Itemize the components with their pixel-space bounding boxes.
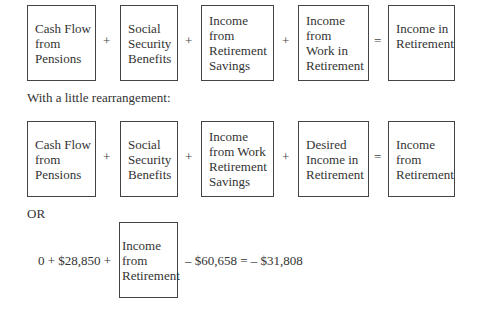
row2-plus-2: + [185, 149, 192, 165]
row2-plus-3: + [282, 149, 289, 165]
row2-box-income-from-retirement: Income from Retirement [388, 121, 455, 197]
row1-plus-1: + [103, 33, 110, 49]
row2-term-desired-income: Desired Income in Retirement [299, 137, 366, 182]
row1-term-social-security: Social Security Benefits [121, 21, 173, 66]
row2-term-work-retirement-savings: Income from Work Retirement Savings [202, 129, 269, 189]
row2-box-desired-income: Desired Income in Retirement [298, 121, 369, 197]
row1-box-retirement-savings: Income from Retirement Savings [201, 5, 274, 81]
row2-box-work-retirement-savings: Income from Work Retirement Savings [201, 121, 274, 197]
row1-term-income-in-retirement: Income in Retirement [389, 21, 456, 51]
row2-plus-1: + [103, 149, 110, 165]
row2-box-social-security: Social Security Benefits [120, 121, 178, 197]
row1-plus-2: + [185, 33, 192, 49]
or-label: OR [27, 206, 45, 222]
row1-term-work-in-retirement: Income from Work in Retirement [299, 13, 366, 73]
row1-box-income-in-retirement: Income in Retirement [388, 5, 455, 81]
row3-term-income-from-retirement: Income from Retirement [120, 238, 182, 283]
row1-box-pensions: Cash Flow from Pensions [27, 5, 96, 81]
row3-box-income-from-retirement: Income from Retirement [119, 222, 178, 298]
row2-term-income-from-retirement: Income from Retirement [389, 137, 456, 182]
row3-prefix: 0 + $28,850 + [38, 253, 111, 269]
row1-term-retirement-savings: Income from Retirement Savings [202, 13, 269, 73]
row3-suffix: – $60,658 = – $31,808 [185, 253, 303, 269]
row1-box-social-security: Social Security Benefits [120, 5, 178, 81]
row2-term-pensions: Cash Flow from Pensions [28, 137, 93, 182]
row2-term-social-security: Social Security Benefits [121, 137, 173, 182]
row1-term-pensions: Cash Flow from Pensions [28, 21, 93, 66]
rearrangement-caption: With a little rearrangement: [27, 90, 171, 106]
row1-equals: = [374, 33, 381, 49]
row2-equals: = [374, 149, 381, 165]
row2-box-pensions: Cash Flow from Pensions [27, 121, 96, 197]
row1-plus-3: + [282, 33, 289, 49]
row1-box-work-in-retirement: Income from Work in Retirement [298, 5, 369, 81]
